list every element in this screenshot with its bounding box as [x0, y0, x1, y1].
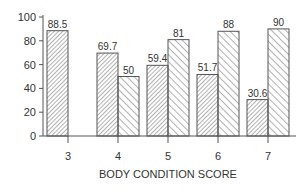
- bar: [168, 40, 189, 136]
- bar: [197, 74, 218, 136]
- y-tick-label: 40: [24, 82, 36, 94]
- y-tick-label: 0: [30, 130, 36, 142]
- bar-value-label: 50: [123, 65, 135, 76]
- bar-value-label: 81: [173, 28, 185, 39]
- bar: [268, 29, 289, 136]
- bar: [247, 100, 268, 136]
- y-axis: 020406080100: [18, 11, 43, 142]
- bar-value-label: 59.4: [148, 53, 168, 64]
- bar: [97, 53, 118, 136]
- x-tick-label: 6: [215, 150, 221, 162]
- bar: [147, 65, 168, 136]
- x-axis: 34567: [43, 136, 296, 162]
- x-tick-label: 4: [115, 150, 121, 162]
- bar-chart: 020406080100 88.569.75059.48151.78830.69…: [0, 0, 306, 190]
- bar-value-label: 88: [223, 19, 235, 30]
- y-tick-label: 20: [24, 106, 36, 118]
- bar-value-label: 51.7: [198, 62, 218, 73]
- x-axis-label: BODY CONDITION SCORE: [99, 168, 237, 180]
- bar: [218, 31, 239, 136]
- x-tick-label: 5: [165, 150, 171, 162]
- bar-value-label: 90: [273, 17, 285, 28]
- bar: [118, 77, 139, 137]
- x-tick-label: 7: [265, 150, 271, 162]
- bar-value-label: 88.5: [48, 19, 68, 30]
- y-tick-label: 60: [24, 59, 36, 71]
- bars: 88.569.75059.48151.78830.690: [47, 17, 289, 136]
- bar: [47, 31, 68, 136]
- x-tick-label: 3: [65, 150, 71, 162]
- bar-value-label: 69.7: [98, 41, 118, 52]
- y-tick-label: 80: [24, 35, 36, 47]
- bar-value-label: 30.6: [248, 88, 268, 99]
- y-tick-label: 100: [18, 11, 36, 23]
